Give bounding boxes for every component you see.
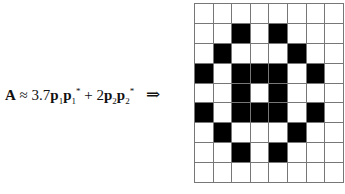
grid-cell [325, 4, 344, 24]
grid-cell [214, 103, 233, 123]
grid-cell [232, 4, 251, 24]
grid-cell [307, 24, 326, 44]
grid-cell [232, 103, 251, 123]
grid-cell [325, 84, 344, 104]
grid-cell [195, 24, 214, 44]
grid-cell [269, 103, 288, 123]
grid-cell [288, 103, 307, 123]
grid-cell [325, 24, 344, 44]
grid-cell [232, 64, 251, 84]
grid-cell [214, 84, 233, 104]
grid-cell [307, 4, 326, 24]
grid-cell [288, 24, 307, 44]
approx-symbol: ≈ [20, 87, 28, 103]
grid-cell [269, 143, 288, 163]
grid-cell [325, 163, 344, 183]
approximation-equation: A ≈ 3.7p1p1* + 2p2p2* [5, 86, 134, 106]
grid-cell [251, 24, 270, 44]
grid-cell [214, 4, 233, 24]
grid-cell [251, 84, 270, 104]
plus-symbol: + [84, 87, 92, 103]
grid-cell [325, 123, 344, 143]
grid-cell [269, 163, 288, 183]
grid-cell [288, 84, 307, 104]
grid-cell [195, 143, 214, 163]
grid-cell [232, 84, 251, 104]
grid-cell [288, 64, 307, 84]
grid-cell [251, 4, 270, 24]
grid-cell [307, 103, 326, 123]
grid-cell [269, 84, 288, 104]
grid-cell [307, 44, 326, 64]
grid-cell [214, 24, 233, 44]
grid-cell [269, 64, 288, 84]
grid-cell [195, 4, 214, 24]
grid-cell [195, 44, 214, 64]
grid-cell [251, 143, 270, 163]
grid-cell [214, 44, 233, 64]
grid-cell [195, 123, 214, 143]
grid-cell [251, 123, 270, 143]
grid-cell [307, 64, 326, 84]
grid-cell [269, 44, 288, 64]
grid-cell [232, 123, 251, 143]
grid-cell [325, 44, 344, 64]
grid-cell [325, 64, 344, 84]
grid-cell [307, 123, 326, 143]
grid-cell [288, 163, 307, 183]
coefficient-1: 3.7 [32, 87, 51, 103]
grid-cell [232, 24, 251, 44]
grid-cell [288, 123, 307, 143]
grid-cell [269, 4, 288, 24]
matrix-a: A [5, 87, 16, 103]
grid-cell [288, 44, 307, 64]
grid-cell [325, 103, 344, 123]
grid-cell [214, 64, 233, 84]
pixel-grid [194, 3, 344, 183]
grid-cell [251, 163, 270, 183]
grid-cell [307, 163, 326, 183]
grid-cell [251, 103, 270, 123]
grid-cell [251, 44, 270, 64]
grid-cell [195, 103, 214, 123]
grid-cell [232, 143, 251, 163]
grid-cell [232, 163, 251, 183]
grid-cell [288, 143, 307, 163]
grid-cell [214, 123, 233, 143]
grid-cell [288, 4, 307, 24]
grid-cell [214, 143, 233, 163]
implies-arrow: ⇒ [146, 84, 160, 105]
grid-cell [214, 163, 233, 183]
grid-cell [195, 163, 214, 183]
grid-cell [251, 64, 270, 84]
grid-cell [325, 143, 344, 163]
grid-cell [269, 24, 288, 44]
grid-cell [195, 84, 214, 104]
grid-cell [269, 123, 288, 143]
grid-cell [195, 64, 214, 84]
grid-cell [307, 143, 326, 163]
grid-cell [307, 84, 326, 104]
coefficient-2: 2 [96, 87, 104, 103]
grid-cell [232, 44, 251, 64]
